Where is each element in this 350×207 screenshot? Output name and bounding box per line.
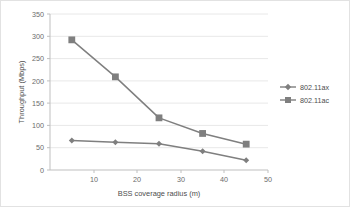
series-line xyxy=(72,40,246,144)
square-marker-icon[interactable] xyxy=(199,130,206,137)
legend-item-802-11ac[interactable]: 802.11ac xyxy=(280,96,329,105)
gridlines xyxy=(50,14,268,148)
y-tick-label-300: 300 xyxy=(32,32,44,41)
x-tick-label-50: 50 xyxy=(264,175,272,184)
x-axis-title: BSS coverage radius (m) xyxy=(118,189,201,198)
square-marker-icon[interactable] xyxy=(68,36,75,43)
y-tick-label-200: 200 xyxy=(32,77,44,86)
y-tick-label-150: 150 xyxy=(32,99,44,108)
diamond-marker-icon[interactable] xyxy=(200,148,206,154)
diamond-marker-icon[interactable] xyxy=(243,157,249,163)
y-tick-label-100: 100 xyxy=(32,121,44,130)
series-802-11ac xyxy=(68,36,249,147)
y-tick-label-250: 250 xyxy=(32,54,44,63)
square-marker-icon[interactable] xyxy=(156,114,163,121)
legend-label-802-11ac: 802.11ac xyxy=(300,96,329,105)
diamond-marker-icon xyxy=(285,84,291,90)
diamond-marker-icon[interactable] xyxy=(69,138,75,144)
y-tick-label-50: 50 xyxy=(36,143,44,152)
chart-svg: 350 300 250 200 150 100 50 0 10 20 30 40… xyxy=(0,0,350,207)
y-axis-title: Throughput (Mbps) xyxy=(17,61,26,124)
square-marker-icon xyxy=(285,97,291,103)
square-marker-icon[interactable] xyxy=(243,141,250,148)
x-tick-label-10: 10 xyxy=(90,175,98,184)
legend-label-802-11ax: 802.11ax xyxy=(300,83,329,92)
chart-legend: 802.11ax 802.11ac xyxy=(280,83,329,105)
x-tick-label-40: 40 xyxy=(220,175,228,184)
throughput-line-chart: 350 300 250 200 150 100 50 0 10 20 30 40… xyxy=(0,0,350,207)
diamond-marker-icon[interactable] xyxy=(156,141,162,147)
y-tick-label-0: 0 xyxy=(40,166,44,175)
x-tick-label-20: 20 xyxy=(133,175,141,184)
series-802-11ax xyxy=(69,138,249,164)
square-marker-icon[interactable] xyxy=(112,73,119,80)
legend-item-802-11ax[interactable]: 802.11ax xyxy=(280,83,329,92)
y-tick-label-350: 350 xyxy=(32,10,44,19)
diamond-marker-icon[interactable] xyxy=(112,139,118,145)
series-layer xyxy=(68,36,249,163)
x-tick-label-30: 30 xyxy=(177,175,185,184)
